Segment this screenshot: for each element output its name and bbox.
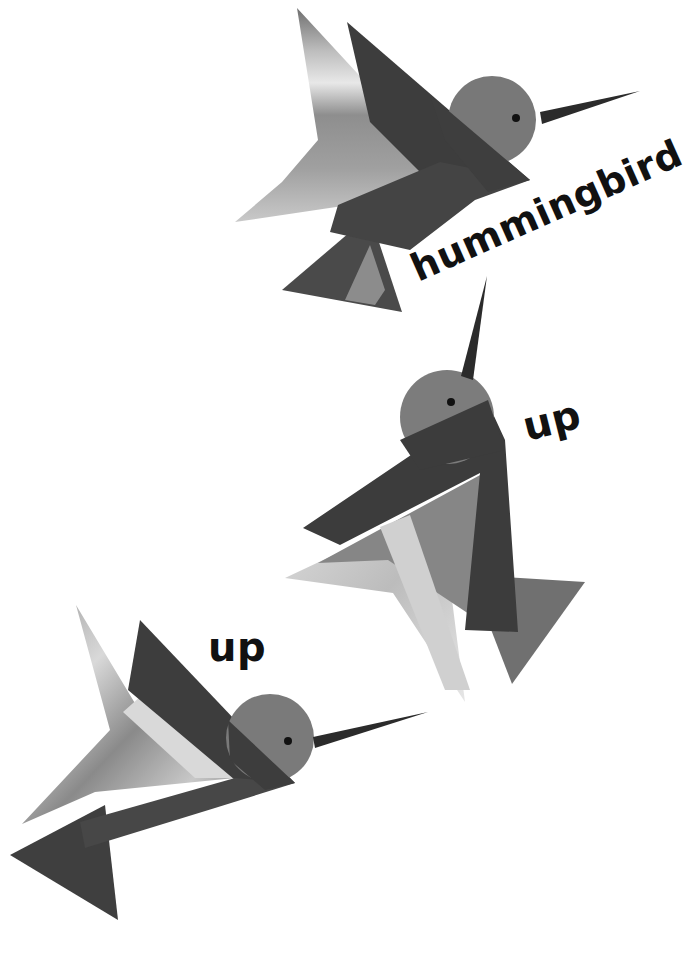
label-up-bottom: up xyxy=(208,624,266,670)
eye xyxy=(512,114,520,122)
eye xyxy=(284,737,292,745)
hummingbird-middle xyxy=(285,276,585,702)
beak xyxy=(540,91,640,124)
eye xyxy=(447,398,455,406)
beak xyxy=(461,276,487,380)
beak xyxy=(313,712,428,748)
